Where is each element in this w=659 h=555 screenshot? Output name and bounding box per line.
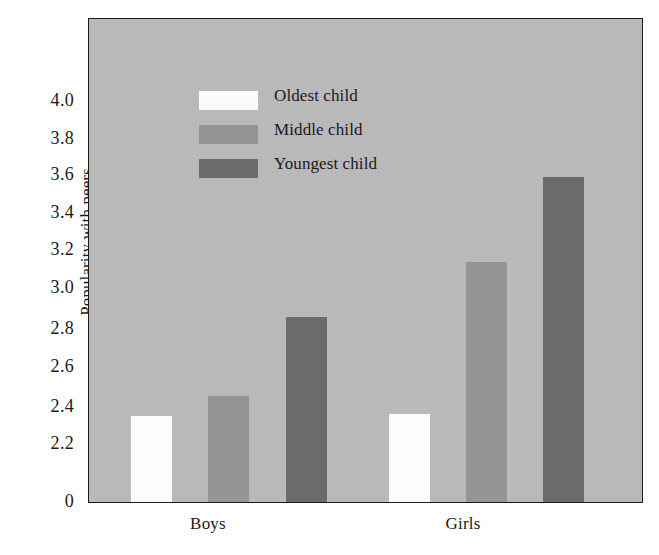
legend-swatch-dark [199,159,258,178]
y-tick-label: 4.0 [51,90,74,111]
y-tick-label: 3.4 [51,202,74,223]
y-tick-label: 3.0 [51,277,74,298]
legend-label: Oldest child [274,86,358,106]
x-axis-label-boys: Boys [148,514,268,534]
plot-area: Oldest childMiddle childYoungest child [88,18,643,503]
legend-label: Youngest child [274,154,377,174]
y-tick-label: 2.4 [51,396,74,417]
y-tick-label: 3.6 [51,164,74,185]
legend-swatch-white [199,91,258,110]
bar-boys-youngest [286,317,327,502]
y-tick-label: 2.2 [51,433,74,454]
bar-girls-youngest [543,177,584,502]
legend-item: Middle child [199,121,449,155]
legend-swatch-medium [199,125,258,144]
bar-girls-oldest [389,414,430,502]
legend-item: Oldest child [199,87,449,121]
y-tick-label: 3.8 [51,128,74,149]
y-tick-label: 3.2 [51,239,74,260]
bar-girls-middle [466,262,507,502]
bar-chart-figure: Popularity with peers 4.03.83.63.43.23.0… [0,0,659,555]
legend-label: Middle child [274,120,363,140]
bar-boys-middle [208,396,249,502]
bar-boys-oldest [131,416,172,502]
x-axis-label-girls: Girls [403,514,523,534]
chart-legend: Oldest childMiddle childYoungest child [199,87,449,189]
y-tick-label: 2.6 [51,356,74,377]
legend-item: Youngest child [199,155,449,189]
y-tick-label: 0 [65,491,74,512]
y-tick-label: 2.8 [51,318,74,339]
